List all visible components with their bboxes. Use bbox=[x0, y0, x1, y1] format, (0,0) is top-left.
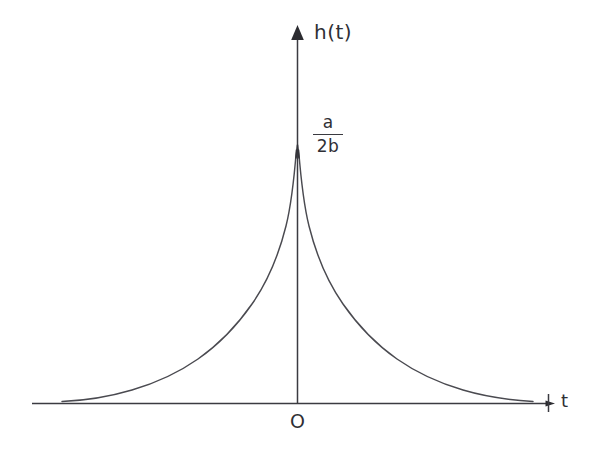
x-axis-arrow-icon bbox=[546, 400, 556, 406]
origin-label: O bbox=[290, 412, 305, 431]
peak-amplitude-label: a 2b bbox=[313, 114, 343, 155]
peak-amplitude-numerator: a bbox=[320, 114, 336, 132]
curve-right-branch bbox=[299, 150, 533, 402]
curve-left-branch bbox=[62, 150, 296, 402]
y-axis-arrow-icon bbox=[291, 25, 304, 40]
plot-canvas bbox=[0, 0, 604, 458]
peak-amplitude-denominator: 2b bbox=[314, 137, 343, 155]
fraction-bar bbox=[313, 134, 343, 135]
y-axis-label: h(t) bbox=[314, 22, 352, 42]
x-axis-label: t bbox=[561, 392, 568, 410]
impulse-response-figure: h(t) t O a 2b bbox=[0, 0, 604, 458]
